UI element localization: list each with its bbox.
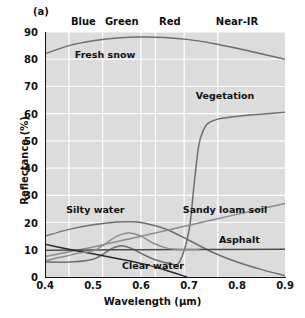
y-tick-10: 10: [24, 244, 38, 255]
y-tick-90: 90: [24, 27, 38, 38]
curve-label-silty-water: Silty water: [66, 204, 124, 215]
curve-silty-water-lobe: [45, 233, 199, 261]
band-label-near-ir: Near-IR: [216, 16, 258, 27]
band-label-red: Red: [159, 16, 181, 27]
y-tick-70: 70: [24, 81, 38, 92]
band-label-blue: Blue: [71, 16, 96, 27]
y-axis-line: [45, 32, 46, 278]
curve-label-vegetation: Vegetation: [196, 90, 255, 101]
curve-label-fresh-snow: Fresh snow: [75, 49, 135, 60]
x-tick-0-9: 0.9: [276, 280, 294, 291]
band-label-green: Green: [105, 16, 139, 27]
curve-label-asphalt: Asphalt: [219, 234, 260, 245]
x-tick-0-7: 0.7: [180, 280, 198, 291]
y-tick-80: 80: [24, 54, 38, 65]
x-axis-title: Wavelength (µm): [0, 296, 305, 307]
x-tick-0-6: 0.6: [132, 280, 150, 291]
x-tick-0-8: 0.8: [228, 280, 246, 291]
x-tick-0-4: 0.4: [36, 280, 54, 291]
x-axis-line: [45, 277, 286, 278]
curve-label-clear-water: Clear water: [122, 260, 184, 271]
curve-label-sandy-loam-soil: Sandy loam soil: [183, 204, 267, 215]
y-axis-title: Reflectance (%): [19, 101, 30, 221]
x-tick-0-5: 0.5: [84, 280, 102, 291]
spectral-reflectance-figure: (a) BlueGreenRedNear-IR 0102030405060708…: [0, 0, 305, 318]
